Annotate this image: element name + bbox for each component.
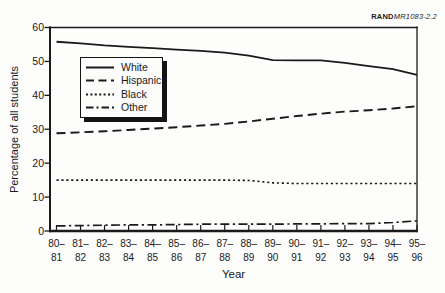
legend-label-hispanic: Hispanic xyxy=(121,75,161,86)
y-tick-label-30: 30 xyxy=(18,123,44,136)
y-tick-label-40: 40 xyxy=(18,89,44,102)
x-tick-label-95-96: 95– 96 xyxy=(404,237,430,264)
y-tick-label-10: 10 xyxy=(18,191,44,204)
x-tick-label-81-82: 81– 82 xyxy=(68,237,94,264)
series-line-black xyxy=(57,180,418,183)
legend-items: WhiteHispanicBlackOther xyxy=(81,59,162,116)
x-tick-label-90-91: 90– 91 xyxy=(284,237,310,264)
x-tick-label-92-93: 92– 93 xyxy=(332,237,358,264)
legend-dashed-line-icon xyxy=(86,78,114,83)
legend-item-black: Black xyxy=(81,89,162,100)
legend-item-hispanic: Hispanic xyxy=(81,75,162,86)
x-tick-label-91-92: 91– 92 xyxy=(308,237,334,264)
y-tick-label-50: 50 xyxy=(18,55,44,68)
x-tick-label-84-85: 84– 85 xyxy=(140,237,166,264)
legend-dotted-line-icon xyxy=(86,92,114,97)
legend-label-white: White xyxy=(121,62,148,73)
x-tick-label-80-81: 80– 81 xyxy=(44,237,70,264)
legend-label-other: Other xyxy=(121,102,147,113)
y-tick-label-60: 60 xyxy=(18,21,44,34)
legend-item-other: Other xyxy=(81,102,162,113)
x-tick-label-89-90: 89– 90 xyxy=(260,237,286,264)
enrollment-percentage-chart: RANDMR1083-2.2 Percentage of all student… xyxy=(0,0,445,293)
figure-source-bold: RAND xyxy=(371,12,393,21)
legend-label-black: Black xyxy=(121,89,147,100)
y-tick-label-20: 20 xyxy=(18,157,44,170)
x-axis-title: Year xyxy=(50,268,417,280)
x-tick-label-93-94: 93– 94 xyxy=(356,237,382,264)
x-tick-label-86-87: 86– 87 xyxy=(188,237,214,264)
x-tick-label-83-84: 83– 84 xyxy=(116,237,142,264)
series-line-other xyxy=(57,221,418,226)
legend-solid-line-icon xyxy=(86,65,114,70)
figure-source-label: RANDMR1083-2.2 xyxy=(371,12,437,21)
legend-item-white: White xyxy=(81,62,162,73)
x-tick-label-94-95: 94– 95 xyxy=(380,237,406,264)
y-tick-label-0: 0 xyxy=(18,225,44,238)
figure-source-italic: MR1083-2.2 xyxy=(394,12,437,21)
x-tick-label-85-86: 85– 86 xyxy=(164,237,190,264)
x-tick-label-82-83: 82– 83 xyxy=(92,237,118,264)
x-tick-label-88-89: 88– 89 xyxy=(236,237,262,264)
legend: WhiteHispanicBlackOther xyxy=(80,57,163,118)
x-tick-label-87-88: 87– 88 xyxy=(212,237,238,264)
legend-dashdot-line-icon xyxy=(86,105,114,110)
